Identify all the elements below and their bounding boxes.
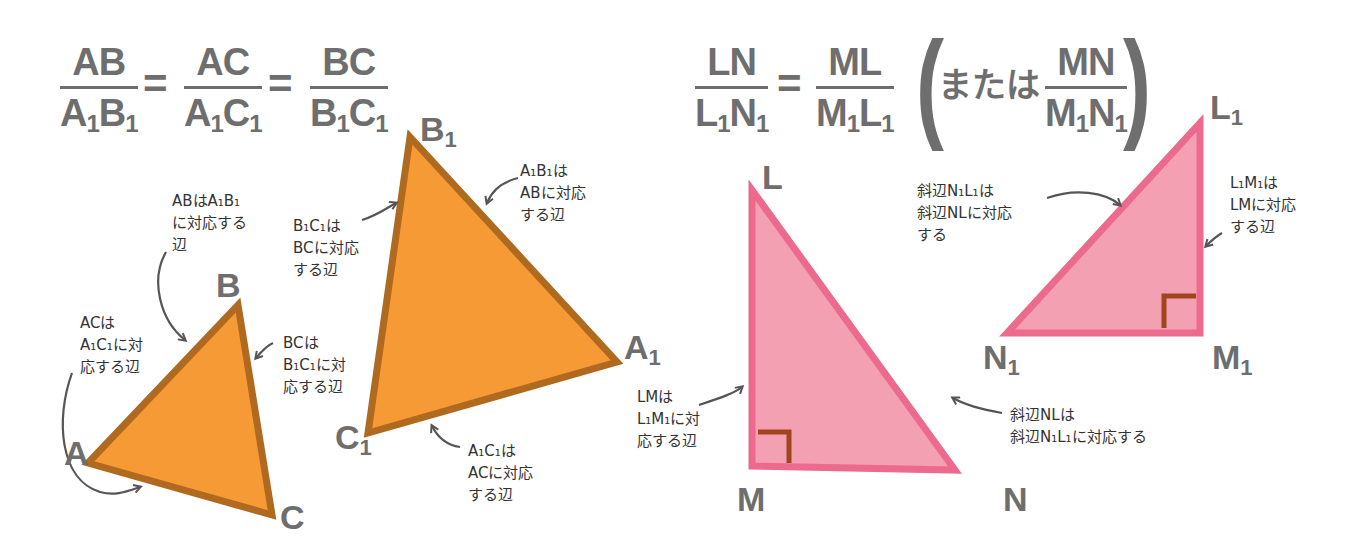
note-ab: ABはA₁B₁ に対応する 辺: [172, 190, 247, 256]
fraction-denominator: L1N1: [695, 91, 768, 146]
fraction-bar: [184, 86, 262, 89]
note-lm: LMは L₁M₁に対 応する辺: [637, 386, 700, 452]
fraction-denominator: M1L1: [816, 91, 894, 146]
arrow-hyp-small: [1047, 192, 1120, 205]
arrow-lm: [699, 387, 742, 405]
vertex-label-m: M: [737, 482, 765, 516]
arrow-bc: [256, 343, 273, 358]
fraction-numerator: AC: [196, 40, 249, 84]
vertex-label-n: N: [1003, 482, 1028, 516]
vertex-label-l1: L1: [1210, 90, 1243, 135]
equals-sign: =: [143, 60, 168, 108]
vertex-label-b1: B1: [420, 112, 457, 157]
fraction-ab: AB A1B1: [60, 40, 138, 146]
fraction-denominator: A1C1: [184, 91, 262, 146]
arrow-a1c1: [432, 426, 460, 447]
fraction-bar: [310, 86, 388, 89]
note-a1c1: A₁C₁は ACに対応 する辺: [468, 440, 533, 506]
fraction-denominator: M1N1: [1045, 91, 1127, 146]
fraction-bar: [816, 86, 894, 89]
vertex-label-c: C: [280, 500, 305, 534]
fraction-denominator: A1B1: [60, 91, 138, 146]
close-parenthesis: ): [1123, 24, 1151, 144]
vertex-label-l: L: [762, 160, 783, 194]
vertex-label-c1: C1: [335, 420, 372, 465]
arrow-ab: [158, 252, 185, 340]
fraction-denominator: B1C1: [310, 91, 388, 146]
note-a1b1: A₁B₁は ABに対応 する辺: [520, 160, 586, 226]
vertex-label-n1: N1: [983, 340, 1020, 385]
note-hypotenuse-n1l1: 斜辺N₁L₁は 斜辺NLに対応 する: [917, 180, 1012, 246]
vertex-label-m1: M1: [1212, 340, 1253, 385]
equals-sign: =: [268, 60, 293, 108]
arrow-a1b1: [487, 178, 518, 203]
arrow-l1m1: [1206, 233, 1222, 246]
fraction-numerator: BC: [322, 40, 375, 84]
fraction-numerator: ML: [828, 40, 881, 84]
fraction-ml: ML M1L1: [816, 40, 894, 146]
fraction-mn: MN M1N1: [1045, 40, 1127, 146]
fraction-numerator: MN: [1057, 40, 1114, 84]
fraction-numerator: AB: [72, 40, 125, 84]
fraction-bar: [1045, 86, 1127, 89]
fraction-numerator: LN: [707, 40, 756, 84]
note-ac: ACは A₁C₁に対 応する辺: [80, 312, 143, 378]
fraction-ac: AC A1C1: [184, 40, 262, 146]
note-bc: BCは B₁C₁に対 応する辺: [283, 332, 346, 398]
vertex-label-a1: A1: [624, 330, 661, 375]
note-hypotenuse-nl: 斜辺NLは 斜辺N₁L₁に対応する: [1010, 404, 1147, 448]
vertex-label-b: B: [216, 268, 241, 302]
triangle-l1m1n1: [1007, 123, 1200, 333]
vertex-label-a: A: [64, 436, 89, 470]
fraction-ln: LN L1N1: [695, 40, 768, 146]
fraction-bc: BC B1C1: [310, 40, 388, 146]
note-b1c1: B₁C₁は BCに対応 する辺: [293, 215, 359, 281]
arrow-b1c1: [362, 203, 396, 220]
fraction-bar: [60, 86, 138, 89]
or-word: または: [938, 58, 1040, 107]
fraction-bar: [695, 86, 768, 89]
note-l1m1: L₁M₁は LMに対応 する辺: [1230, 172, 1296, 238]
arrow-hyp-large: [953, 398, 1002, 413]
equals-sign: =: [777, 60, 802, 108]
